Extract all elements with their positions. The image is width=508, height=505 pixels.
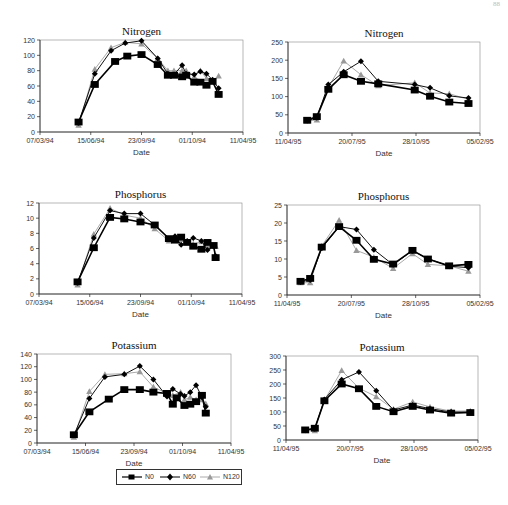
square-marker-icon [91,81,99,88]
square-marker-icon [202,410,210,417]
y-tick-label: 50 [273,423,281,430]
y-tick-label: 8 [30,230,34,237]
x-tick-label: 07/03/94 [25,299,52,306]
y-tick-label: 100 [271,93,283,100]
square-marker-icon [173,394,181,401]
square-marker-icon [464,261,472,268]
square-marker-icon [357,78,365,85]
square-marker-icon [70,431,78,438]
x-tick-label: 07/03/94 [26,137,53,144]
square-marker-icon [182,72,190,79]
y-tick-label: 0 [30,291,34,298]
square-marker-icon [352,237,360,244]
square-marker-icon [372,403,380,410]
chart-phosphorus-1995: Phosphorus051015202511/04/9520/07/9528/1… [274,190,494,320]
square-marker-icon [85,408,93,415]
x-tick-label: 15/06/94 [76,299,103,306]
square-marker-icon [111,58,119,65]
triangle-marker-icon [199,470,221,484]
square-marker-icon [374,80,382,87]
y-tick-label: 200 [269,381,281,388]
x-tick-label: 20/07/95 [338,138,365,145]
chart-title: Phosphorus [358,190,409,202]
triangle-marker-icon [373,393,379,399]
x-tick-label: 11/04/95 [229,299,256,306]
square-marker-icon [426,93,434,100]
legend-label: N0 [145,470,154,484]
square-marker-icon [320,397,328,404]
plot-frame [287,205,480,295]
square-marker-icon [151,222,159,229]
x-tick-label: 28/10/95 [402,138,429,145]
x-tick-label: 28/10/95 [400,445,427,452]
square-marker-icon [389,261,397,268]
y-tick-label: 40 [27,98,35,105]
y-tick-label: 20 [274,220,282,227]
x-tick-label: 23/09/94 [127,299,154,306]
triangle-marker-icon [336,217,342,223]
square-marker-icon [306,275,314,282]
chart-potassium-1994: Potassium02040608010012014007/03/9415/06… [20,339,244,468]
chart-title: Nitrogen [364,27,404,39]
y-tick-label: 60 [27,83,35,90]
square-marker-icon [121,470,143,484]
square-marker-icon [90,244,98,251]
square-marker-icon [170,72,178,79]
chart-phosphorus-1994: Phosphorus02468101207/03/9415/06/9423/09… [25,188,255,319]
y-tick-label: 6 [30,245,34,252]
y-tick-label: 15 [274,238,282,245]
y-tick-label: 80 [27,67,35,74]
x-tick-label: 07/03/94 [23,448,50,455]
diamond-marker-icon [159,470,181,484]
square-marker-icon [137,219,145,226]
square-marker-icon [123,53,131,60]
chart-potassium-1995: Potassium05010015020025030011/04/9520/07… [269,341,491,465]
y-tick-label: 50 [275,111,283,118]
square-marker-icon [338,381,346,388]
series-line-n60 [305,372,470,430]
square-marker-icon [318,244,326,251]
diamond-marker-icon [121,371,127,377]
y-tick-label: 10 [26,215,34,222]
square-marker-icon [445,99,453,106]
square-marker-icon [335,223,343,230]
y-tick-label: 120 [20,363,32,370]
x-tick-label: 23/09/94 [120,448,147,455]
y-tick-label: 100 [269,409,281,416]
square-marker-icon [313,113,321,120]
y-tick-label: 300 [269,353,281,360]
square-marker-icon [424,256,432,263]
y-tick-label: 2 [30,275,34,282]
y-tick-label: 20 [27,113,35,120]
triangle-marker-icon [137,369,143,375]
x-axis-label: Date [132,310,149,319]
x-tick-label: 20/07/95 [336,445,363,452]
chart-nitrogen-1995: Nitrogen05010015020025011/04/9520/07/952… [271,27,493,158]
square-marker-icon [324,86,332,93]
triangle-marker-icon [340,58,346,64]
series-line-n0 [79,55,219,122]
triangle-marker-icon [338,367,344,373]
x-tick-label: 11/04/95 [273,445,300,452]
y-tick-label: 0 [28,440,32,447]
y-tick-label: 5 [278,274,282,281]
x-tick-label: 01/10/94 [178,299,205,306]
y-tick-label: 200 [271,57,283,64]
legend: N0 N60 N120 [116,469,242,485]
series-line-n0 [301,227,469,282]
square-marker-icon [390,408,398,415]
x-tick-label: 11/04/95 [218,448,245,455]
square-marker-icon [447,410,455,417]
chart-title: Phosphorus [115,188,166,200]
y-tick-label: 60 [24,401,32,408]
square-marker-icon [163,390,171,397]
y-tick-label: 250 [271,39,283,46]
x-tick-label: 28/10/95 [402,300,429,307]
square-marker-icon [464,100,472,107]
series-line-n120 [301,220,469,283]
square-marker-icon [192,398,200,405]
x-tick-label: 01/10/94 [179,137,206,144]
diamond-marker-icon [191,72,197,78]
x-axis-label: Date [133,148,150,157]
series-line-n60 [301,227,469,282]
